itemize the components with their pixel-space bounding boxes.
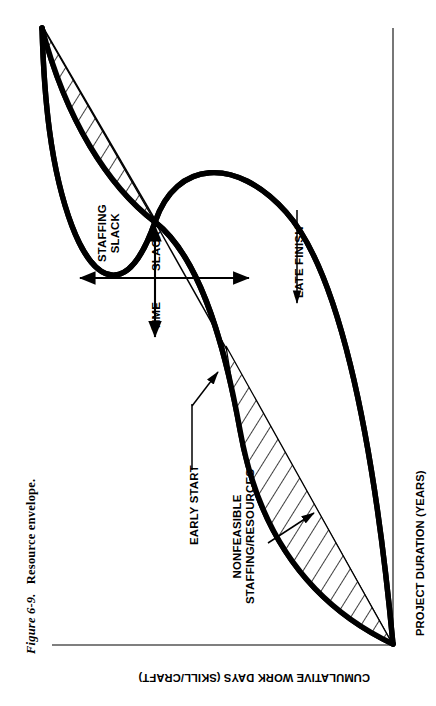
early-start-leader-arrow (192, 372, 218, 406)
resource-envelope-figure (0, 0, 436, 706)
figure-page: Figure 6-9. Resource envelope. CUMULATIV… (0, 0, 436, 706)
hatched-region-lower (226, 346, 393, 645)
